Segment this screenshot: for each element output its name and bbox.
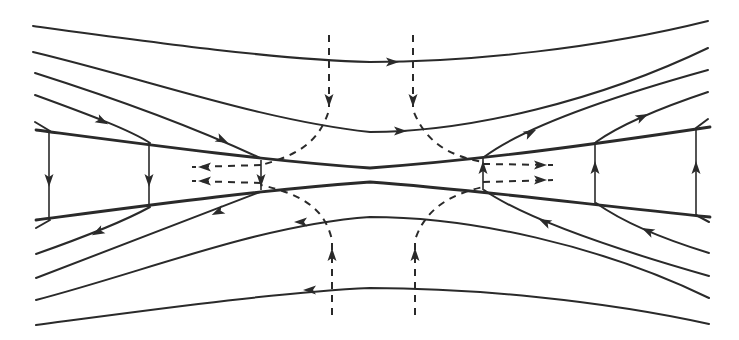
field-line-diagram [0, 0, 739, 340]
